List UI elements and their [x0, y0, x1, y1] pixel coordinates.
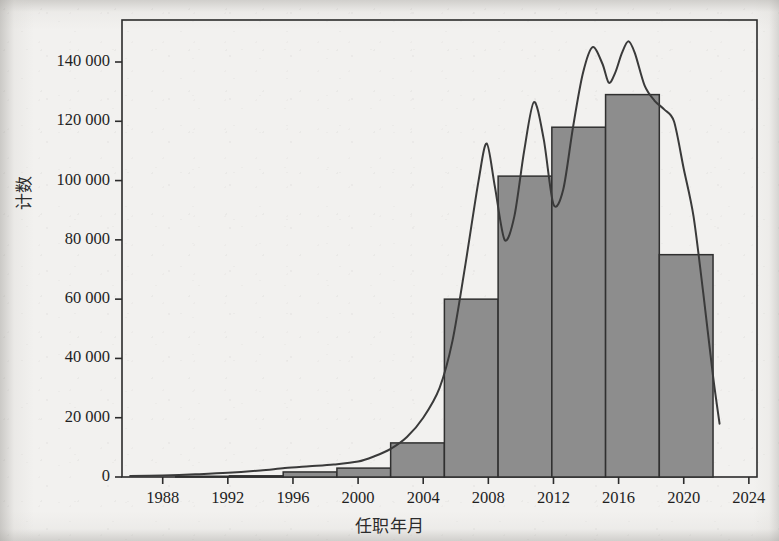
x-axis-title: 任职年月	[0, 512, 779, 537]
y-axis-tick-label: 100 000	[56, 170, 110, 190]
scanned-page-background: 140 000120 000100 00080 00060 00040 0002…	[0, 0, 779, 541]
x-axis-tick-label: 2024	[719, 488, 779, 508]
histogram-bar	[391, 443, 445, 477]
x-axis-tick-label: 2020	[654, 488, 714, 508]
x-axis-tick-label: 2012	[523, 488, 583, 508]
histogram-chart	[0, 0, 779, 541]
histogram-bar	[552, 127, 606, 477]
y-axis-tick-label: 20 000	[65, 407, 110, 427]
x-axis-tick-label: 1996	[263, 488, 323, 508]
histogram-bars	[176, 95, 713, 477]
x-axis-tick-label: 2016	[589, 488, 649, 508]
x-axis-tick-label: 2000	[328, 488, 388, 508]
x-axis-tick-label: 1988	[133, 488, 193, 508]
x-axis-tick-label: 2008	[458, 488, 518, 508]
histogram-bar	[337, 468, 391, 477]
histogram-bar	[659, 255, 713, 477]
y-axis-tick-label: 120 000	[56, 110, 110, 130]
histogram-bar	[498, 176, 552, 477]
histogram-bar	[176, 476, 230, 477]
x-axis-tick-label: 1992	[198, 488, 258, 508]
histogram-bar	[229, 476, 283, 477]
y-axis-tick-label: 40 000	[65, 347, 110, 367]
histogram-bar	[606, 95, 660, 477]
y-axis-tick-label: 0	[102, 466, 110, 486]
y-axis-title: 计数	[10, 153, 35, 233]
x-axis-tick-label: 2004	[393, 488, 453, 508]
histogram-bar	[444, 299, 498, 477]
y-axis-tick-label: 60 000	[65, 288, 110, 308]
y-axis-tick-label: 80 000	[65, 229, 110, 249]
histogram-bar	[283, 472, 337, 477]
y-axis-tick-label: 140 000	[56, 51, 110, 71]
